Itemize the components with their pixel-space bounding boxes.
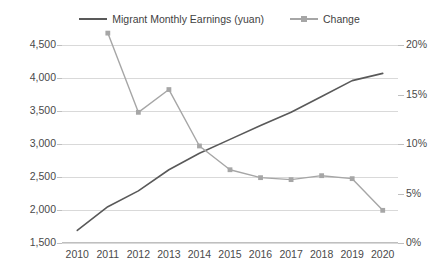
y-axis-right-tick-label: 10% <box>406 138 439 149</box>
y-axis-right-tick-label: 0% <box>406 237 439 248</box>
data-point-marker <box>258 175 263 180</box>
y-axis-left-labels: 1,5002,0002,5003,0003,5004,0004,500 <box>6 45 56 243</box>
data-point-marker <box>197 144 202 149</box>
y-axis-right-tick-mark <box>398 243 404 244</box>
y-axis-left-tickmarks <box>55 45 62 243</box>
data-point-marker <box>380 208 385 213</box>
data-point-marker <box>350 176 355 181</box>
legend-label-earnings: Migrant Monthly Earnings (yuan) <box>112 13 264 25</box>
y-axis-right-tick-label: 15% <box>406 89 439 100</box>
y-axis-left-tick-label: 3,500 <box>10 105 56 116</box>
legend-item-earnings[interactable]: Migrant Monthly Earnings (yuan) <box>79 13 264 25</box>
gridline <box>62 243 398 244</box>
y-axis-right-tickmarks <box>398 45 406 243</box>
legend-swatch-line-icon <box>79 14 107 24</box>
y-axis-right-tick-label: 20% <box>406 39 439 50</box>
y-axis-left-tick-label: 4,500 <box>10 39 56 50</box>
data-point-marker <box>136 110 141 115</box>
data-point-marker <box>319 173 324 178</box>
data-point-marker <box>228 167 233 172</box>
legend-item-change[interactable]: Change <box>290 13 360 25</box>
y-axis-right-tick-mark <box>398 144 404 145</box>
y-axis-left-tick-label: 4,000 <box>10 72 56 83</box>
y-axis-right-tick-mark <box>398 194 404 195</box>
data-point-marker <box>289 177 294 182</box>
y-axis-left-tick-label: 1,500 <box>10 237 56 248</box>
y-axis-left-tick-label: 2,500 <box>10 171 56 182</box>
legend-swatch-line-marker-icon <box>290 14 318 24</box>
y-axis-right-tick-mark <box>398 95 404 96</box>
legend-label-change: Change <box>323 13 360 25</box>
y-axis-left-tick-label: 2,000 <box>10 204 56 215</box>
chart-container: Migrant Monthly Earnings (yuan) Change 1… <box>0 0 439 273</box>
y-axis-left-tick-label: 3,000 <box>10 138 56 149</box>
y-axis-right-tick-mark <box>398 45 404 46</box>
y-axis-right-tick-label: 5% <box>406 188 439 199</box>
x-axis-tick-label: 2020 <box>363 248 403 260</box>
series-line-earnings <box>77 73 382 230</box>
y-axis-right-labels: 0%5%10%15%20% <box>406 45 439 243</box>
plot-area <box>62 45 398 243</box>
x-axis-labels: 2010201120122013201420152016201720182019… <box>62 248 398 264</box>
series-plot <box>62 45 398 243</box>
data-point-marker <box>105 31 110 36</box>
data-point-marker <box>167 87 172 92</box>
chart-legend: Migrant Monthly Earnings (yuan) Change <box>0 10 439 28</box>
